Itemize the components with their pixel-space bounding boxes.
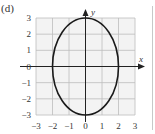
y-tick-label: −3 <box>21 110 31 120</box>
y-tick-label: −2 <box>21 94 31 104</box>
y-axis-arrow-icon <box>83 9 89 16</box>
y-axis-label: y <box>90 7 95 17</box>
y-tick-label: −1 <box>21 78 31 88</box>
x-tick-label: 0 <box>83 121 88 131</box>
divider-line <box>152 6 153 130</box>
x-tick-labels: −3−2−10123 <box>31 121 138 131</box>
x-tick-label: 2 <box>116 121 121 131</box>
x-axis-arrow-icon <box>138 64 145 70</box>
x-tick-label: −3 <box>31 121 41 131</box>
y-tick-label: 2 <box>27 29 32 39</box>
y-tick-label: 1 <box>27 45 32 55</box>
x-tick-label: −1 <box>64 121 74 131</box>
y-tick-label: 0 <box>27 62 32 72</box>
x-tick-label: 3 <box>133 121 138 131</box>
x-tick-label: 1 <box>100 121 105 131</box>
figure-panel-d: (d) −3−2−10123 3210−1−2−3 x y <box>0 0 155 134</box>
x-tick-label: −2 <box>48 121 58 131</box>
x-axis-label: x <box>138 54 143 64</box>
ellipse-plot: −3−2−10123 3210−1−2−3 x y <box>0 0 155 134</box>
y-tick-label: 3 <box>27 13 32 23</box>
